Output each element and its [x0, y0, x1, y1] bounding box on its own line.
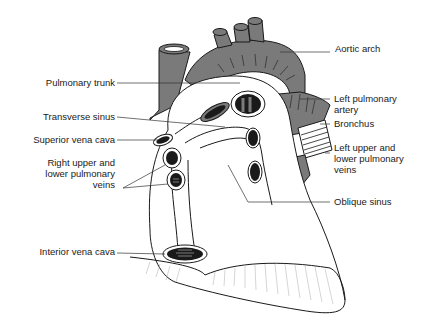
inferior-vena-cava-opening — [163, 245, 207, 263]
label-right-pulmonary-veins-line2: lower pulmonary — [45, 168, 115, 179]
label-left-pulmonary-artery-line2: artery — [334, 104, 358, 115]
pulmonary-trunk-opening — [231, 91, 265, 117]
label-left-pulmonary-artery-line1: Left pulmonary — [334, 93, 397, 104]
label-right-pulmonary-veins-line1: Right upper and — [47, 157, 115, 168]
label-left-pulmonary-veins-line3: veins — [334, 164, 356, 175]
label-interior-vena-cava: Interior vena cava — [39, 246, 115, 257]
label-left-pulmonary-veins-line1: Left upper and — [334, 142, 395, 153]
label-superior-vena-cava: Superior vena cava — [33, 134, 115, 145]
label-bronchus: Bronchus — [334, 118, 374, 129]
label-oblique-sinus: Oblique sinus — [334, 196, 392, 207]
label-pulmonary-trunk: Pulmonary trunk — [46, 77, 115, 88]
label-left-pulmonary-veins-line2: lower pulmonary — [334, 153, 404, 164]
label-aortic-arch: Aortic arch — [335, 43, 380, 54]
label-right-pulmonary-veins-line3: veins — [93, 179, 115, 190]
label-transverse-sinus: Transverse sinus — [43, 111, 115, 122]
